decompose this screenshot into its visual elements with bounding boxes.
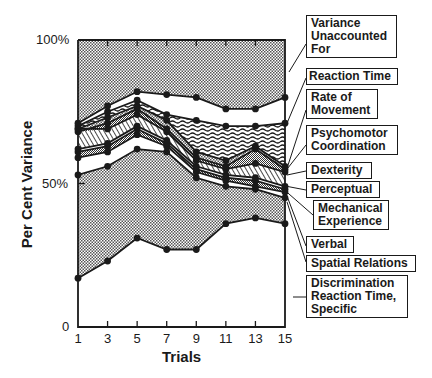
data-point: [252, 143, 259, 150]
data-point: [134, 146, 141, 153]
legend-perceptual: Perceptual: [306, 181, 380, 198]
data-point: [134, 235, 141, 242]
data-point: [252, 174, 259, 181]
data-point: [222, 105, 229, 112]
plot-area: [75, 40, 313, 327]
data-point: [134, 97, 141, 104]
data-point: [222, 123, 229, 130]
data-point: [222, 157, 229, 164]
x-axis-title: Trials: [162, 348, 201, 365]
legend-verbal: Verbal: [306, 236, 354, 253]
x-tick-label: 5: [127, 331, 147, 346]
x-tick-label: 7: [157, 331, 177, 346]
legend-psychomotor-coordination: Psychomotor Coordination: [306, 125, 398, 155]
data-point: [252, 105, 259, 112]
leader-line: [287, 202, 306, 262]
data-point: [193, 117, 200, 124]
legend-discrimination-reaction-time: Discrimination Reaction Time, Specific: [306, 275, 408, 318]
data-point: [104, 140, 111, 147]
leader-line: [287, 110, 306, 168]
legend-variance-unaccounted: Variance Unaccounted For: [306, 15, 397, 58]
data-point: [193, 94, 200, 101]
legend-mechanical-experience: Mechanical Experience: [313, 200, 389, 230]
x-tick-label: 13: [245, 331, 265, 346]
data-point: [104, 163, 111, 170]
x-tick-label: 15: [275, 331, 295, 346]
x-tick-label: 9: [186, 331, 206, 346]
data-point: [193, 246, 200, 253]
data-point: [163, 91, 170, 98]
data-point: [104, 103, 111, 110]
x-tick-label: 3: [98, 331, 118, 346]
data-point: [252, 160, 259, 167]
y-tick-50: 50%: [42, 176, 68, 191]
data-point: [163, 246, 170, 253]
data-point: [134, 123, 141, 130]
data-point: [252, 123, 259, 130]
leader-line: [287, 171, 306, 175]
legend-reaction-time: Reaction Time: [306, 68, 398, 85]
leader-line: [287, 196, 306, 246]
legend-dexterity: Dexterity: [306, 162, 372, 179]
leader-line: [289, 44, 306, 72]
x-tick-label: 11: [216, 331, 236, 346]
leader-line: [287, 78, 306, 123]
leader-line: [287, 145, 306, 169]
data-point: [222, 220, 229, 227]
data-point: [104, 258, 111, 265]
y-tick-100: 100%: [36, 32, 69, 47]
data-point: [163, 126, 170, 133]
data-point: [163, 111, 170, 118]
leader-line: [287, 186, 306, 190]
legend-spatial-relations: Spatial Relations: [306, 255, 416, 272]
data-point: [163, 137, 170, 144]
data-point: [134, 88, 141, 95]
legend-rate-of-movement: Rate of Movement: [306, 89, 378, 119]
x-tick-label: 1: [68, 331, 88, 346]
data-point: [193, 149, 200, 156]
data-point: [252, 215, 259, 222]
y-axis-title: Per Cent Variance: [18, 115, 35, 255]
